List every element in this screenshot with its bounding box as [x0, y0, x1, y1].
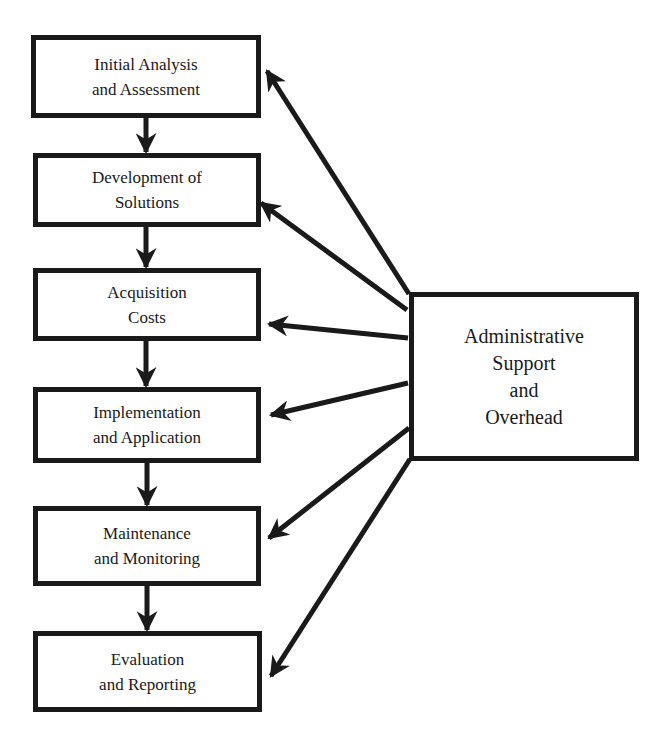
node-label-line: Evaluation: [111, 647, 185, 672]
node-label-line: and Assessment: [92, 77, 200, 102]
node-label-line: and Reporting: [99, 672, 196, 697]
node-label-line: Development of: [92, 165, 202, 190]
node-label-line: Maintenance: [103, 521, 191, 546]
arrow-admin-to-step5: [269, 428, 409, 538]
node-step3: AcquisitionCosts: [33, 268, 261, 341]
node-step4: Implementationand Application: [33, 387, 261, 463]
node-step1: Initial Analysisand Assessment: [31, 35, 261, 118]
node-label-line: Administrative: [464, 323, 584, 350]
node-label-line: and Application: [93, 425, 201, 450]
node-label-line: Costs: [128, 305, 166, 330]
node-step5: Maintenanceand Monitoring: [33, 506, 261, 586]
node-admin: AdministrativeSupportandOverhead: [409, 292, 639, 461]
node-label-line: Solutions: [115, 190, 179, 215]
support-arrows: [261, 71, 410, 676]
arrow-admin-to-step6: [271, 459, 410, 676]
node-label-line: Overhead: [485, 404, 563, 431]
node-step6: Evaluationand Reporting: [33, 631, 262, 712]
node-label-line: and Monitoring: [94, 546, 200, 571]
arrow-admin-to-step3: [269, 324, 408, 338]
node-label-line: Acquisition: [107, 280, 186, 305]
node-label-line: and: [510, 377, 539, 404]
node-step2: Development ofSolutions: [33, 153, 261, 227]
arrow-admin-to-step4: [271, 383, 408, 415]
node-label-line: Initial Analysis: [94, 52, 197, 77]
node-label-line: Implementation: [93, 400, 201, 425]
node-label-line: Support: [492, 350, 555, 377]
